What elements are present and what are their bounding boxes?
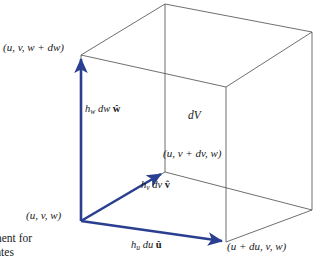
w-unit-vector: ŵ	[113, 103, 121, 114]
volume-element-label: dV	[188, 110, 201, 122]
u-unit-vector: û	[156, 239, 162, 250]
vertex-label-origin: (u, v, w)	[26, 210, 61, 221]
u-vector-differential: du	[143, 239, 154, 250]
caption-line-1: nent for	[0, 232, 32, 245]
v-vector-subscript: v	[146, 183, 149, 192]
u-vector-label: hu du û	[131, 240, 162, 251]
w-vector-label: hw dw ŵ	[85, 104, 120, 115]
vertex-label-top: (u, v, w + dw)	[3, 42, 64, 53]
vertex-label-right: (u + du, v, w)	[227, 241, 286, 252]
v-vector-label: hv dv v̂	[141, 180, 170, 191]
v-vector-differential: dv	[152, 179, 162, 190]
cube-top-face-edges	[81, 4, 312, 87]
w-vector-differential: dw	[98, 103, 110, 114]
caption-line-2: ates	[0, 246, 14, 259]
u-vector-subscript: u	[136, 243, 140, 252]
cube-edge-bottom-back-right	[165, 172, 312, 210]
cube-wireframe	[81, 4, 312, 242]
v-unit-vector: v̂	[165, 179, 170, 190]
vertex-label-depth: (u, v + dv, w)	[163, 148, 222, 159]
w-vector-subscript: w	[90, 107, 95, 116]
volume-element-figure: (u, v, w + dw) (u, v, w) (u, v + dv, w) …	[0, 0, 316, 259]
cube-edge-bottom-front-right	[226, 210, 312, 242]
u-vector-arrow	[81, 221, 222, 241]
